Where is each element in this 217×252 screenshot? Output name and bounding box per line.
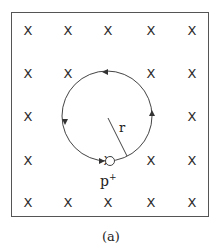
field-x-marker: X: [64, 66, 73, 81]
field-x-marker: X: [104, 23, 113, 38]
field-x-marker: X: [64, 195, 73, 210]
field-x-marker: X: [24, 195, 33, 210]
field-x-marker: X: [104, 195, 113, 210]
charge-superscript: +: [109, 172, 117, 182]
field-x-marker: X: [24, 153, 33, 168]
field-x-marker: X: [147, 153, 156, 168]
orbit-path: [62, 71, 152, 161]
field-x-marker: X: [188, 66, 197, 81]
field-x-marker: X: [147, 23, 156, 38]
proton-label: p+: [100, 172, 117, 189]
field-x-marker: X: [188, 153, 197, 168]
field-x-marker: X: [188, 109, 197, 124]
arrow-top-icon: [102, 69, 108, 75]
field-x-marker: X: [188, 23, 197, 38]
field-x-marker: X: [147, 195, 156, 210]
magnetic-field-diagram: XXXXXXXXXXXXXXXXXXXX r p+ (a): [0, 0, 217, 252]
field-x-marker: X: [24, 66, 33, 81]
arrow-right-icon: [149, 110, 155, 116]
figure-caption: (a): [102, 229, 120, 244]
radius-label: r: [119, 120, 126, 135]
field-x-marker: X: [64, 23, 73, 38]
field-x-marker: X: [24, 109, 33, 124]
proton-particle: [106, 157, 115, 166]
field-region-frame: [12, 13, 209, 217]
field-x-marker: X: [24, 23, 33, 38]
field-x-marker: X: [147, 66, 156, 81]
field-x-marker: X: [188, 195, 197, 210]
